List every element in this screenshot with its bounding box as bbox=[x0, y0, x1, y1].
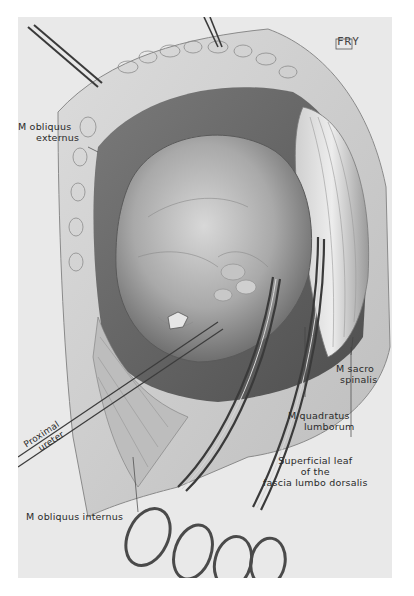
label-obliquus-internus: M obliquus internus bbox=[26, 511, 123, 522]
label-fascia-lumbo-dorsalis: Superficial leaf of the fascia lumbo dor… bbox=[263, 455, 368, 488]
anatomical-plate: FRY M obliquus externus M sacro spinalis… bbox=[18, 17, 392, 578]
label-quadratus-lumborum: M quadratus lumborum bbox=[288, 410, 355, 432]
artist-signature: FRY bbox=[337, 35, 360, 48]
surgical-illustration bbox=[18, 17, 392, 578]
label-sacro-spinalis: M sacro spinalis bbox=[336, 363, 377, 385]
label-obliquus-externus: M obliquus externus bbox=[18, 121, 79, 143]
